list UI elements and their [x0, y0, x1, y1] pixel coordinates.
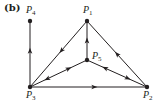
node-label-p4: P4: [26, 5, 36, 17]
arrowhead-icon: [124, 75, 131, 82]
arrowhead-icon: [43, 76, 50, 83]
edge-p1-p3: [30, 21, 87, 87]
node-label-p1: P1: [83, 5, 93, 17]
arrowhead-icon: [65, 65, 72, 72]
arrowhead-icon: [101, 65, 108, 72]
node-label-p5: P5: [92, 51, 102, 63]
edge-p5-p2: [87, 60, 147, 87]
node-label-p3: P3: [26, 90, 36, 102]
directed-graph: [0, 0, 153, 102]
panel-label: (b): [4, 2, 20, 13]
node-p1: [85, 19, 89, 23]
node-p4: [28, 19, 32, 23]
node-label-p2: P2: [143, 90, 153, 102]
edge-p3-p5: [30, 60, 87, 87]
node-p5: [85, 58, 89, 62]
